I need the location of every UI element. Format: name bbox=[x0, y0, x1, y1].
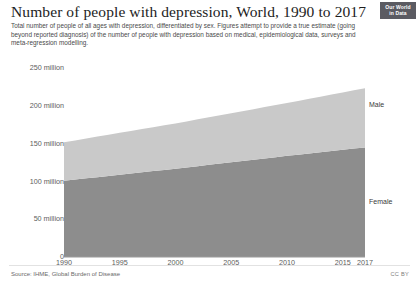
stacked-area-chart bbox=[0, 55, 419, 263]
chart-header: Number of people with depression, World,… bbox=[11, 3, 363, 48]
y-axis-tick-50: 50 million bbox=[0, 214, 64, 223]
series-label-male: Male bbox=[369, 101, 384, 108]
chart-subtitle: Total number of people of all ages with … bbox=[11, 22, 361, 48]
chart-plot-area: 050 million100 million150 million200 mil… bbox=[0, 55, 419, 263]
series-group bbox=[64, 88, 365, 257]
y-axis-tick-200: 200 million bbox=[0, 101, 64, 110]
series-label-female: Female bbox=[369, 198, 392, 205]
y-axis-tick-150: 150 million bbox=[0, 139, 64, 148]
our-world-in-data-logo[interactable]: Our World in Data bbox=[380, 2, 416, 19]
logo-line-2: in Data bbox=[380, 10, 416, 16]
page-title: Number of people with depression, World,… bbox=[11, 3, 363, 20]
source-note: Source: IHME, Global Burden of Disease bbox=[11, 271, 120, 277]
footer-divider bbox=[9, 265, 410, 266]
y-axis-tick-0: 0 bbox=[0, 252, 64, 261]
license-note: CC BY bbox=[390, 271, 409, 277]
y-axis-tick-100: 100 million bbox=[0, 177, 64, 186]
y-axis-tick-250: 250 million bbox=[0, 63, 64, 72]
